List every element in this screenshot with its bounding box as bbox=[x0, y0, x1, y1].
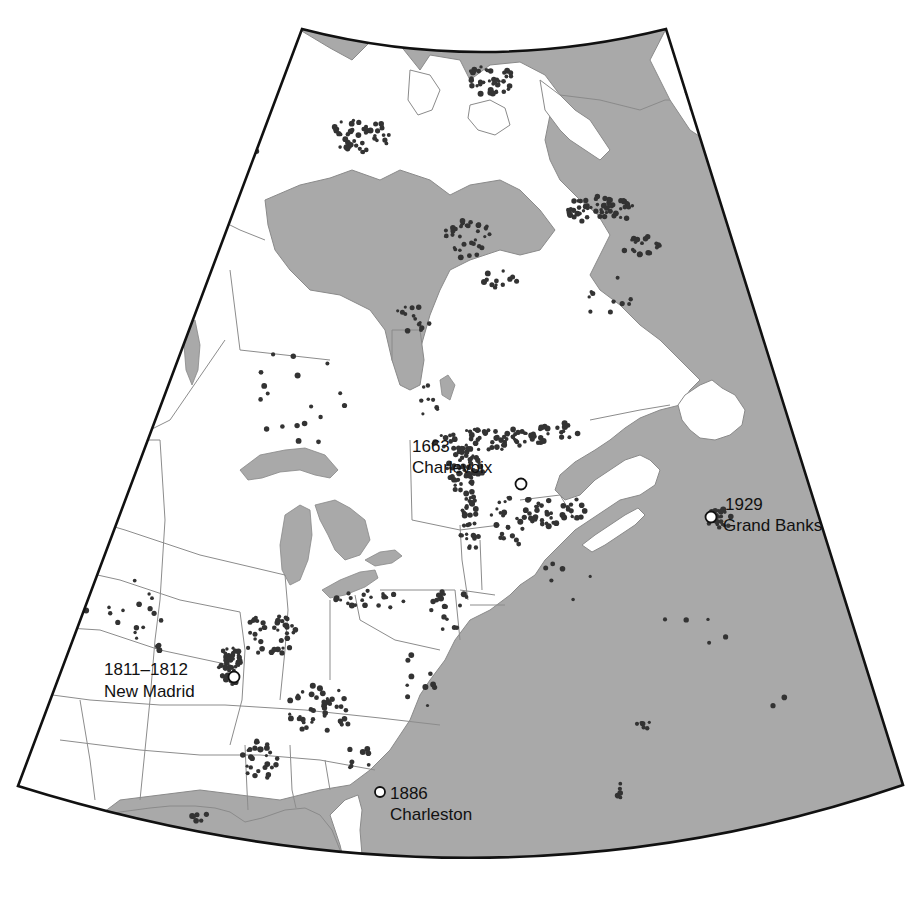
epicenter-dot bbox=[525, 432, 528, 435]
epicenter-dot bbox=[453, 487, 458, 492]
epicenter-dot bbox=[645, 726, 649, 730]
epicenter-dot bbox=[256, 651, 260, 655]
epicenter-dot bbox=[488, 68, 493, 73]
epicenter-dot bbox=[302, 721, 306, 725]
epicenter-dot bbox=[705, 110, 708, 113]
epicenter-dot bbox=[603, 203, 606, 206]
new-madrid-year-label: 1811–1812 bbox=[104, 660, 188, 679]
epicenter-dot bbox=[428, 671, 433, 676]
historic-quake-circle bbox=[516, 479, 527, 490]
epicenter-dot bbox=[346, 591, 350, 595]
epicenter-dot bbox=[246, 771, 250, 775]
epicenter-dot bbox=[246, 150, 251, 155]
epicenter-dot bbox=[271, 352, 275, 356]
epicenter-dot bbox=[608, 197, 613, 202]
epicenter-dot bbox=[453, 246, 456, 249]
epicenter-dot bbox=[561, 503, 567, 509]
epicenter-dot bbox=[484, 431, 488, 435]
epicenter-dot bbox=[336, 131, 341, 136]
epicenter-dot bbox=[465, 429, 468, 432]
epicenter-dot bbox=[459, 482, 463, 486]
epicenter-dot bbox=[115, 620, 120, 625]
epicenter-dot bbox=[152, 611, 157, 616]
epicenter-dot bbox=[199, 818, 203, 822]
epicenter-dot bbox=[409, 674, 415, 680]
epicenter-dot bbox=[658, 244, 662, 248]
epicenter-dot bbox=[648, 721, 651, 724]
epicenter-dot bbox=[273, 762, 278, 767]
epicenter-dot bbox=[53, 623, 57, 627]
epicenter-dot bbox=[465, 504, 469, 508]
epicenter-dot bbox=[233, 649, 236, 652]
epicenter-dot bbox=[517, 519, 523, 525]
epicenter-dot bbox=[453, 227, 457, 231]
epicenter-dot bbox=[396, 309, 399, 312]
epicenter-dot bbox=[469, 432, 475, 438]
epicenter-dot bbox=[534, 508, 539, 513]
epicenter-dot bbox=[516, 542, 521, 547]
epicenter-dot bbox=[148, 606, 153, 611]
epicenter-dot bbox=[590, 290, 594, 294]
epicenter-dot bbox=[246, 646, 250, 650]
epicenter-dot bbox=[136, 601, 142, 607]
epicenter-dot bbox=[265, 754, 268, 757]
epicenter-dot bbox=[219, 663, 224, 668]
epicenter-dot bbox=[539, 503, 544, 508]
epicenter-dot bbox=[366, 589, 370, 593]
epicenter-dot bbox=[511, 434, 516, 439]
epicenter-dot bbox=[276, 628, 279, 631]
epicenter-dot bbox=[687, 79, 691, 83]
epicenter-dot bbox=[37, 611, 41, 615]
epicenter-dot bbox=[342, 403, 347, 408]
epicenter-dot bbox=[40, 575, 44, 579]
epicenter-dot bbox=[135, 637, 138, 640]
epicenter-dot bbox=[462, 242, 467, 247]
epicenter-dot bbox=[275, 618, 281, 624]
epicenter-dot bbox=[263, 765, 268, 770]
epicenter-dot bbox=[71, 616, 77, 622]
epicenter-dot bbox=[227, 653, 230, 656]
epicenter-dot bbox=[324, 703, 328, 707]
epicenter-dot bbox=[466, 223, 471, 228]
epicenter-dot bbox=[473, 428, 476, 431]
epicenter-dot bbox=[285, 617, 290, 622]
epicenter-dot bbox=[288, 713, 291, 716]
epicenter-dot bbox=[191, 814, 196, 819]
epicenter-dot bbox=[462, 513, 468, 519]
epicenter-dot bbox=[502, 442, 508, 448]
epicenter-dot bbox=[688, 65, 692, 69]
epicenter-dot bbox=[441, 627, 445, 631]
epicenter-dot bbox=[300, 726, 305, 731]
epicenter-dot bbox=[635, 237, 641, 243]
epicenter-dot bbox=[335, 705, 339, 709]
epicenter-dot bbox=[248, 631, 252, 635]
epicenter-dot bbox=[258, 397, 263, 402]
epicenter-dot bbox=[335, 127, 339, 131]
epicenter-dot bbox=[474, 545, 478, 549]
epicenter-dot bbox=[356, 132, 362, 138]
epicenter-dot bbox=[67, 623, 72, 628]
epicenter-dot bbox=[484, 226, 488, 230]
epicenter-dot bbox=[75, 591, 81, 597]
epicenter-dot bbox=[469, 83, 474, 88]
epicenter-dot bbox=[463, 491, 469, 497]
epicenter-dot bbox=[339, 704, 344, 709]
epicenter-dot bbox=[461, 591, 467, 597]
epicenter-dot bbox=[354, 143, 358, 147]
epicenter-dot bbox=[470, 482, 474, 486]
epicenter-dot bbox=[569, 207, 573, 211]
epicenter-dot bbox=[566, 507, 571, 512]
epicenter-dot bbox=[349, 596, 353, 600]
epicenter-dot bbox=[133, 631, 136, 634]
epicenter-dot bbox=[444, 229, 448, 233]
epicenter-dot bbox=[707, 641, 711, 645]
epicenter-dot bbox=[291, 354, 296, 359]
epicenter-dot bbox=[254, 739, 259, 744]
epicenter-dot bbox=[427, 321, 432, 326]
epicenter-dot bbox=[325, 362, 329, 366]
epicenter-dot bbox=[588, 310, 592, 314]
epicenter-dot bbox=[380, 124, 384, 128]
epicenter-dot bbox=[622, 248, 627, 253]
epicenter-dot bbox=[474, 252, 479, 257]
epicenter-dot bbox=[577, 205, 582, 210]
